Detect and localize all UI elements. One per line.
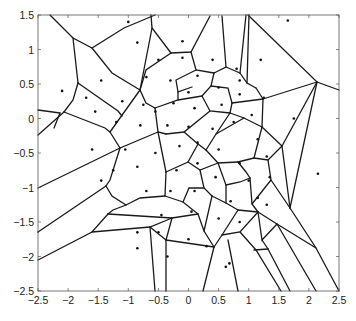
y-tick-label: 0.5 xyxy=(19,78,34,90)
site-point xyxy=(217,217,220,220)
site-point xyxy=(259,59,262,62)
site-point xyxy=(136,231,139,234)
x-tick-label: 2.5 xyxy=(332,294,347,306)
site-point xyxy=(181,56,184,59)
site-point xyxy=(100,179,103,182)
site-point xyxy=(127,21,130,24)
site-point xyxy=(238,221,241,224)
site-point xyxy=(121,100,124,103)
site-point xyxy=(262,97,265,100)
site-point xyxy=(250,114,253,117)
y-tick-label: −1 xyxy=(22,182,34,194)
site-point xyxy=(85,97,88,100)
site-point xyxy=(157,231,160,234)
x-tick-label: 0.5 xyxy=(211,294,226,306)
site-point xyxy=(136,166,139,169)
site-point xyxy=(317,172,320,175)
site-point xyxy=(205,245,208,248)
site-point xyxy=(187,125,190,128)
voronoi-figure: −2.5−2−1.5−1−0.500.511.522.5 1.510.50−0.… xyxy=(0,0,356,321)
axes-frame xyxy=(38,15,339,291)
x-tick-label: −0.5 xyxy=(148,294,169,306)
site-point xyxy=(211,59,214,62)
site-point xyxy=(181,40,184,43)
site-point xyxy=(287,19,290,22)
x-tick-label: 1 xyxy=(246,294,252,306)
site-point xyxy=(100,79,103,82)
x-tick-label: 2 xyxy=(306,294,312,306)
site-point xyxy=(238,93,241,96)
site-point xyxy=(193,107,196,110)
site-point xyxy=(238,79,241,82)
site-point xyxy=(142,103,145,106)
y-tick-label: 1 xyxy=(28,44,34,56)
site-point xyxy=(225,266,228,269)
site-point xyxy=(187,238,190,241)
x-tick-label: 1.5 xyxy=(271,294,286,306)
site-point xyxy=(169,190,172,193)
y-tick-label: 1.5 xyxy=(19,9,34,21)
site-point xyxy=(238,162,241,165)
site-point xyxy=(190,210,193,213)
y-tick-label: −2 xyxy=(22,251,34,263)
site-point xyxy=(214,176,217,179)
site-point xyxy=(154,152,157,155)
y-tick-label: −1.5 xyxy=(13,216,34,228)
site-point xyxy=(196,162,199,165)
site-point xyxy=(136,41,139,44)
y-tick-label: 0 xyxy=(28,113,34,125)
site-point xyxy=(61,90,64,93)
y-tick-label: −0.5 xyxy=(13,147,34,159)
y-tick-label: −2.5 xyxy=(13,285,34,297)
site-point xyxy=(178,145,181,148)
site-point xyxy=(166,124,169,127)
site-point xyxy=(228,262,231,265)
site-point xyxy=(91,148,94,151)
site-point xyxy=(145,190,148,193)
site-point xyxy=(169,79,172,82)
site-point xyxy=(166,255,169,258)
site-point xyxy=(265,155,268,158)
site-point xyxy=(139,124,142,127)
site-point xyxy=(196,141,199,144)
site-point xyxy=(211,128,214,131)
site-point xyxy=(220,103,223,106)
site-point xyxy=(154,110,157,113)
site-point xyxy=(145,76,148,79)
site-point xyxy=(157,59,160,62)
site-point xyxy=(268,176,271,179)
x-tick-label: −1 xyxy=(122,294,134,306)
site-point xyxy=(112,169,115,172)
site-point xyxy=(160,214,163,217)
x-tick-label: 0 xyxy=(186,294,192,306)
site-point xyxy=(247,179,250,182)
site-point xyxy=(217,148,220,151)
site-point xyxy=(187,91,190,94)
site-point xyxy=(293,117,296,120)
site-point xyxy=(265,203,268,206)
site-point xyxy=(196,74,199,77)
site-point xyxy=(136,247,139,250)
voronoi-edges xyxy=(38,15,339,291)
site-point xyxy=(235,68,238,71)
site-point xyxy=(256,197,259,200)
site-point xyxy=(115,121,118,124)
site-point xyxy=(232,121,235,124)
site-point xyxy=(193,190,196,193)
site-point xyxy=(94,110,97,113)
x-tick-label: −2 xyxy=(62,294,74,306)
site-point xyxy=(217,86,220,89)
site-point xyxy=(175,169,178,172)
site-point xyxy=(172,102,175,105)
site-point xyxy=(229,200,232,203)
site-point xyxy=(256,138,259,141)
x-tick-label: −1.5 xyxy=(88,294,109,306)
site-point xyxy=(124,148,127,151)
